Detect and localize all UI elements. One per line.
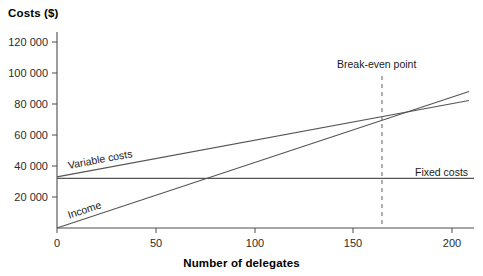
- series-label-fixed-costs: Fixed costs: [415, 166, 468, 178]
- x-tick-label-200: 200: [432, 237, 472, 249]
- y-tick-marks: [52, 42, 57, 197]
- x-tick-marks: [57, 228, 452, 233]
- x-axis-title: Number of delegates: [0, 258, 483, 270]
- x-tick-label-100: 100: [235, 237, 275, 249]
- cost-volume-profit-chart: Costs ($) Number of delegates 120 000 10…: [0, 0, 483, 276]
- x-tick-label-0: 0: [37, 237, 77, 249]
- x-tick-label-150: 150: [333, 237, 373, 249]
- y-tick-label-60000: 60 000: [0, 129, 48, 141]
- y-tick-label-40000: 40 000: [0, 160, 48, 172]
- annotation-break-even-point: Break-even point: [337, 58, 416, 70]
- y-axis-title: Costs ($): [8, 8, 59, 20]
- chart-plot-area: [0, 0, 483, 276]
- y-tick-label-20000: 20 000: [0, 191, 48, 203]
- y-tick-label-100000: 100 000: [0, 67, 48, 79]
- y-tick-label-120000: 120 000: [0, 36, 48, 48]
- y-tick-label-80000: 80 000: [0, 98, 48, 110]
- x-tick-label-50: 50: [136, 237, 176, 249]
